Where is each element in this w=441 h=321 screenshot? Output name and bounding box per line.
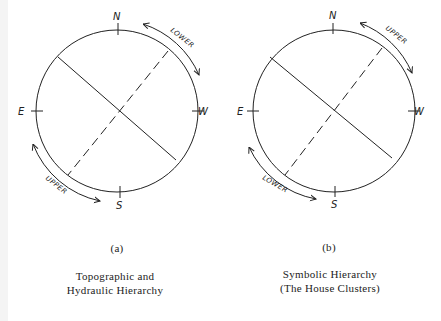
panel-a-label: (a)	[95, 241, 139, 255]
panel-b-label: (b)	[307, 240, 351, 254]
solid-axis-line	[270, 57, 392, 158]
east-label: E	[18, 106, 25, 117]
south-label: S	[331, 199, 338, 210]
caption-line-1: Topographic and	[50, 269, 180, 283]
arc-bottom-label: LOWER	[261, 174, 289, 195]
panel-b-caption: Symbolic Hierarchy (The House Clusters)	[260, 267, 400, 295]
north-label: N	[329, 10, 337, 21]
caption-line-2: Hydraulic Hierarchy	[50, 283, 180, 297]
west-label: W	[198, 106, 209, 117]
south-label: S	[116, 200, 123, 211]
east-label: E	[237, 106, 244, 117]
panel-b-diagram: N S E W UPPER LOWER	[237, 10, 425, 210]
solid-axis-line	[58, 57, 176, 160]
dashed-axis-line	[285, 48, 382, 175]
compass-circle	[253, 30, 415, 192]
caption-line-2: (The House Clusters)	[260, 281, 400, 295]
west-label: W	[414, 106, 425, 117]
compass-circle	[36, 30, 198, 192]
north-label: N	[113, 11, 121, 22]
panel-a-caption: Topographic and Hydraulic Hierarchy	[50, 269, 180, 297]
arc-top-label: LOWER	[169, 26, 196, 49]
caption-line-1: Symbolic Hierarchy	[260, 267, 400, 281]
dashed-axis-line	[68, 51, 168, 175]
panel-a-diagram: N S E W LOWER UPPER	[18, 11, 209, 211]
arc-top-label: UPPER	[384, 24, 409, 46]
